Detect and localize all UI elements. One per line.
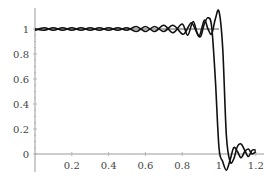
y-tick-label: 0.2 [13, 124, 29, 135]
series-group [35, 10, 256, 170]
y-tick-label: 0.4 [13, 99, 29, 110]
y-tick-label: 0 [23, 149, 29, 160]
y-tick-label: 1 [23, 24, 29, 35]
series-line-2 [35, 10, 256, 163]
x-tick-label: 0.8 [174, 160, 190, 171]
y-tick-label: 0.6 [13, 74, 29, 85]
plot-area: 00.20.40.60.81 0.20.40.60.811.2 [0, 0, 274, 182]
x-tick-label: 0.2 [64, 160, 80, 171]
x-tick-label: 0.4 [101, 160, 117, 171]
x-tick-label: 1.2 [248, 160, 264, 171]
y-axis: 00.20.40.60.81 [13, 8, 37, 172]
y-axis-ticks: 00.20.40.60.81 [13, 24, 37, 160]
x-axis-ticks: 0.20.40.60.811.2 [64, 152, 264, 171]
y-tick-label: 0.8 [13, 49, 29, 60]
x-tick-label: 1 [216, 160, 222, 171]
x-tick-label: 0.6 [137, 160, 153, 171]
